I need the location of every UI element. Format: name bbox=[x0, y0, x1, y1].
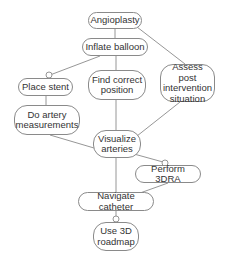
node-navigate-catheter: Navigate catheter bbox=[78, 192, 154, 211]
node-do-artery-measurements: Do artery measurements bbox=[14, 105, 80, 135]
node-place-stent: Place stent bbox=[18, 78, 73, 96]
node-angioplasty: Angioplasty bbox=[88, 12, 142, 29]
edge-visualize-3dra bbox=[134, 154, 163, 162]
task-diagram: Angioplasty Inflate balloon Place stent … bbox=[0, 0, 225, 260]
node-visualize-arteries: Visualize arteries bbox=[93, 130, 141, 158]
edge-measure-visualize bbox=[50, 135, 94, 148]
edge-assess-visualize bbox=[137, 102, 180, 136]
node-assess-post-intervention: Assess post intervention situation bbox=[160, 64, 215, 102]
node-find-correct-position: Find correct position bbox=[88, 70, 146, 100]
node-inflate-balloon: Inflate balloon bbox=[82, 38, 148, 56]
node-use-3d-roadmap: Use 3D roadmap bbox=[93, 222, 139, 251]
node-perform-3dra: Perform 3DRA bbox=[135, 165, 201, 183]
